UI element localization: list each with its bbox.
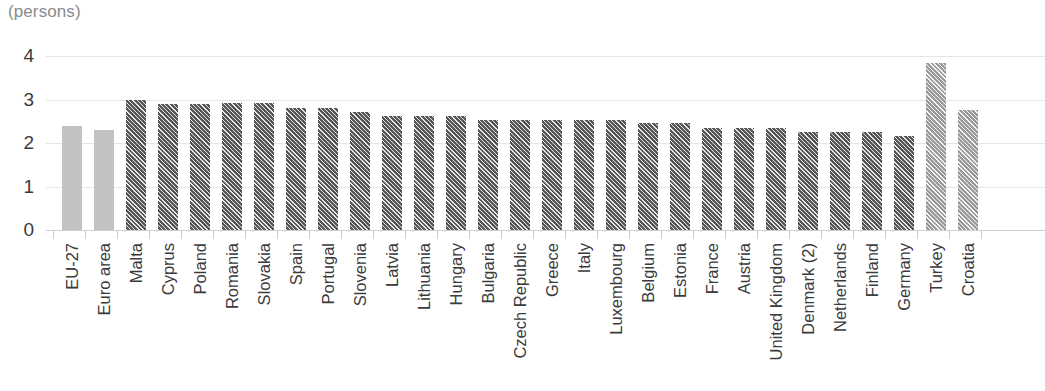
bar[interactable]: [446, 116, 466, 230]
bar[interactable]: [510, 120, 530, 230]
bar[interactable]: [318, 108, 338, 230]
bar-slot: [728, 56, 760, 230]
bar[interactable]: [94, 130, 114, 230]
x-tick-label: Spain: [280, 239, 312, 389]
x-tick-label: Netherlands: [824, 239, 856, 389]
bar-slot: [440, 56, 472, 230]
bar[interactable]: [862, 132, 882, 230]
bar-slot: [600, 56, 632, 230]
y-tick-label-0: 0: [23, 219, 34, 241]
x-tick: [405, 230, 406, 239]
x-tick-label-text: Finland: [864, 243, 881, 297]
x-tick-label: Poland: [184, 239, 216, 389]
x-tick: [565, 230, 566, 239]
x-tick-label: Italy: [568, 239, 600, 389]
bar-slot: [792, 56, 824, 230]
bar-slot: [88, 56, 120, 230]
x-tick: [597, 230, 598, 239]
x-tick-label-text: Hungary: [448, 243, 465, 305]
bar[interactable]: [766, 128, 786, 230]
x-tick: [693, 230, 694, 239]
x-tick-label: Slovakia: [248, 239, 280, 389]
x-tick: [309, 230, 310, 239]
bar-slot: [344, 56, 376, 230]
x-tick-label-text: Euro area: [96, 243, 113, 315]
bar[interactable]: [382, 116, 402, 230]
x-tick: [661, 230, 662, 239]
x-tick-label-text: EU-27: [64, 243, 81, 290]
x-tick-label-text: Croatia: [960, 243, 977, 296]
x-tick: [117, 230, 118, 239]
bar-slot: [568, 56, 600, 230]
bar[interactable]: [830, 132, 850, 230]
x-tick: [85, 230, 86, 239]
bar-slot: [376, 56, 408, 230]
y-axis-labels: 01234: [0, 0, 46, 230]
x-tick: [213, 230, 214, 239]
bar[interactable]: [222, 103, 242, 230]
bar[interactable]: [574, 120, 594, 230]
x-tick-label-text: Estonia: [672, 243, 689, 298]
x-axis-ticks: [46, 230, 1045, 239]
bar[interactable]: [926, 63, 946, 230]
bar[interactable]: [190, 104, 210, 230]
bar[interactable]: [414, 116, 434, 230]
bar-slot: [536, 56, 568, 230]
bar-slot: [888, 56, 920, 230]
x-tick-label-text: United Kingdom: [768, 243, 785, 360]
bar[interactable]: [894, 136, 914, 230]
x-tick-label: Euro area: [88, 239, 120, 389]
x-tick-label-text: Belgium: [640, 243, 657, 303]
x-tick-label: Croatia: [952, 239, 984, 389]
bar-slot: [120, 56, 152, 230]
x-tick-label-text: Latvia: [384, 243, 401, 287]
y-tick-label-4: 4: [23, 45, 34, 67]
x-tick-label: Bulgaria: [472, 239, 504, 389]
x-tick-label-text: Poland: [192, 243, 209, 294]
bar[interactable]: [286, 108, 306, 230]
bar[interactable]: [638, 123, 658, 230]
x-tick-label-text: Cyprus: [160, 243, 177, 295]
bar[interactable]: [254, 103, 274, 230]
x-tick: [885, 230, 886, 239]
x-tick-label-text: Netherlands: [832, 243, 849, 332]
x-tick-label-text: France: [704, 243, 721, 294]
x-tick-label: Cyprus: [152, 239, 184, 389]
bar[interactable]: [126, 100, 146, 231]
bar[interactable]: [606, 120, 626, 230]
bar[interactable]: [158, 104, 178, 230]
x-tick: [341, 230, 342, 239]
bar[interactable]: [350, 112, 370, 230]
bar[interactable]: [798, 132, 818, 230]
x-tick-label: Latvia: [376, 239, 408, 389]
bar-slot: [472, 56, 504, 230]
x-tick: [469, 230, 470, 239]
bar[interactable]: [542, 120, 562, 230]
x-tick-label: Slovenia: [344, 239, 376, 389]
x-tick: [629, 230, 630, 239]
x-tick: [277, 230, 278, 239]
x-tick-label-text: Czech Republic: [512, 243, 529, 359]
bar[interactable]: [702, 128, 722, 230]
bar-slot: [920, 56, 952, 230]
bar-slot: [632, 56, 664, 230]
bar-slot: [696, 56, 728, 230]
x-tick-label-text: Turkey: [928, 243, 945, 293]
x-tick: [757, 230, 758, 239]
bar[interactable]: [958, 110, 978, 230]
bar[interactable]: [670, 123, 690, 230]
x-tick-label-text: Lithuania: [416, 243, 433, 310]
bar-slot: [760, 56, 792, 230]
x-tick: [245, 230, 246, 239]
x-tick-label: Hungary: [440, 239, 472, 389]
x-tick-label-text: Bulgaria: [480, 243, 497, 304]
bar[interactable]: [62, 126, 82, 230]
bar[interactable]: [734, 128, 754, 230]
x-tick-label-text: Luxembourg: [608, 243, 625, 335]
x-tick-label-text: Austria: [736, 243, 753, 294]
x-tick-label: EU-27: [56, 239, 88, 389]
x-tick: [981, 230, 982, 239]
bar[interactable]: [478, 120, 498, 230]
x-tick-label: Romania: [216, 239, 248, 389]
x-tick-label-text: Slovenia: [352, 243, 369, 306]
